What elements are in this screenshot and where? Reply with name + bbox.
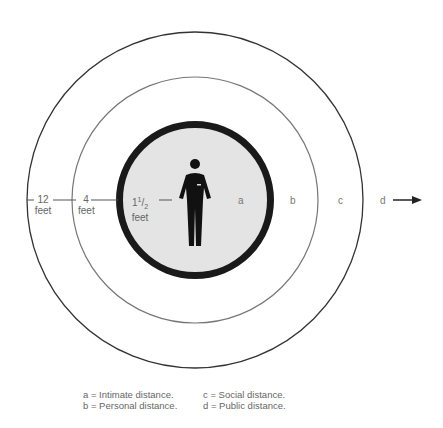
legend-b: b = Personal distance. bbox=[83, 400, 177, 411]
arrow-right-icon bbox=[393, 196, 422, 204]
zone-label-a: a bbox=[238, 195, 244, 206]
legend-d: d = Public distance. bbox=[203, 400, 286, 411]
distance-unit: feet bbox=[122, 212, 158, 223]
distance-label-1-5ft: 11/2 feet bbox=[122, 194, 158, 223]
diagram-canvas bbox=[0, 0, 443, 428]
zone-label-c: c bbox=[338, 195, 343, 206]
legend-a: a = Intimate distance. bbox=[83, 389, 174, 400]
fraction-denominator: 2 bbox=[144, 203, 148, 210]
distance-value: 12 bbox=[30, 194, 56, 205]
distance-value: 4 bbox=[78, 194, 94, 205]
zone-label-d: d bbox=[380, 195, 386, 206]
distance-unit: feet bbox=[30, 205, 56, 216]
zone-label-b: b bbox=[290, 195, 296, 206]
distance-label-12ft: 12 feet bbox=[30, 194, 56, 216]
distance-label-4ft: 4 feet bbox=[78, 194, 94, 216]
distance-value: 11/2 bbox=[122, 194, 158, 212]
fraction-numerator: 1 bbox=[137, 196, 141, 203]
legend-c: c = Social distance. bbox=[203, 389, 285, 400]
distance-unit: feet bbox=[78, 205, 94, 216]
